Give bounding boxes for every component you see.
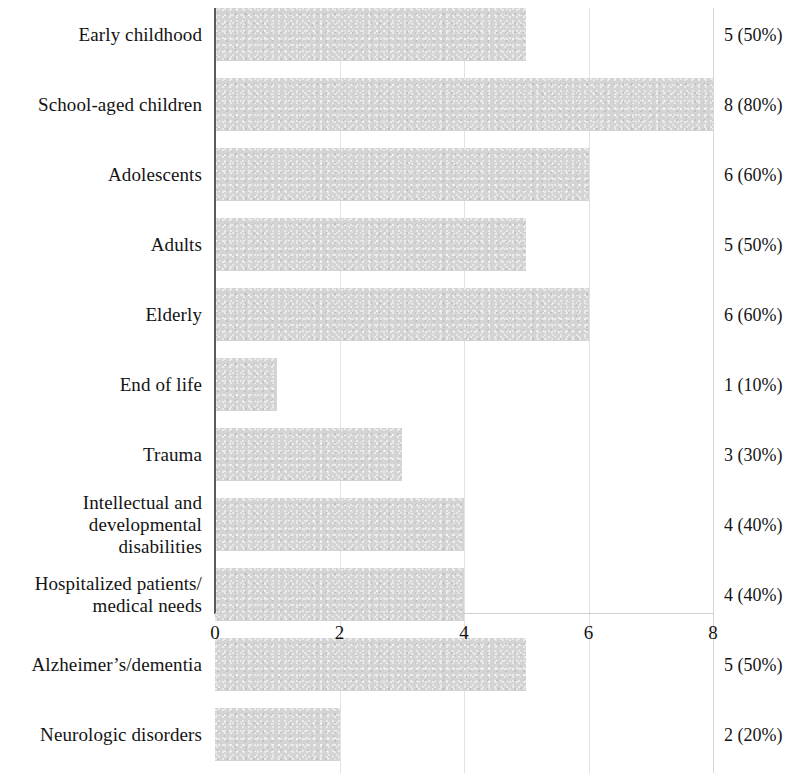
- value-label: 2 (20%): [724, 725, 793, 745]
- value-label: 4 (40%): [724, 585, 793, 605]
- value-label: 5 (50%): [724, 655, 793, 675]
- value-label: 3 (30%): [724, 445, 793, 465]
- category-label: End of life: [0, 374, 202, 396]
- value-label: 4 (40%): [724, 515, 793, 535]
- y-axis-line: [214, 8, 216, 614]
- category-label-line: School-aged children: [0, 94, 202, 116]
- value-label: 8 (80%): [724, 95, 793, 115]
- category-label-line: Adolescents: [0, 164, 202, 186]
- category-label-line: Adults: [0, 234, 202, 256]
- value-label: 1 (10%): [724, 375, 793, 395]
- bar: [215, 358, 277, 411]
- bar: [215, 218, 526, 271]
- category-label: Early childhood: [0, 24, 202, 46]
- category-label: Neurologic disorders: [0, 724, 202, 746]
- category-label-line: Hospitalized patients/: [0, 573, 202, 595]
- category-label-line: developmental: [0, 514, 202, 536]
- category-label: School-aged children: [0, 94, 202, 116]
- value-label: 6 (60%): [724, 165, 793, 185]
- category-label-line: Trauma: [0, 444, 202, 466]
- bar: [215, 498, 464, 551]
- category-label-line: End of life: [0, 374, 202, 396]
- category-label-line: Neurologic disorders: [0, 724, 202, 746]
- bar: [215, 638, 526, 691]
- category-label-line: Elderly: [0, 304, 202, 326]
- gridline-8: [713, 8, 714, 773]
- bar: [215, 78, 713, 131]
- bar: [215, 288, 589, 341]
- bar: [215, 708, 340, 761]
- value-label: 5 (50%): [724, 235, 793, 255]
- x-tick-label-8: 8: [693, 621, 733, 645]
- x-tick-label-2: 2: [320, 621, 360, 645]
- x-axis-line: [215, 613, 714, 614]
- category-label-line: medical needs: [0, 595, 202, 617]
- bar: [215, 148, 589, 201]
- category-label-line: disabilities: [0, 536, 202, 558]
- category-label: Hospitalized patients/medical needs: [0, 573, 202, 617]
- value-label: 5 (50%): [724, 25, 793, 45]
- category-label-line: Intellectual and: [0, 492, 202, 514]
- x-tick-label-6: 6: [569, 621, 609, 645]
- bar: [215, 8, 526, 61]
- x-tick-label-4: 4: [444, 621, 484, 645]
- x-tick-label-0: 0: [195, 621, 235, 645]
- category-label-line: Early childhood: [0, 24, 202, 46]
- category-label: Adults: [0, 234, 202, 256]
- category-label: Trauma: [0, 444, 202, 466]
- category-label: Intellectual anddevelopmentaldisabilitie…: [0, 492, 202, 558]
- category-label: Adolescents: [0, 164, 202, 186]
- value-label: 6 (60%): [724, 305, 793, 325]
- category-label: Elderly: [0, 304, 202, 326]
- category-label: Alzheimer’s/dementia: [0, 654, 202, 676]
- bar: [215, 428, 402, 481]
- category-label-line: Alzheimer’s/dementia: [0, 654, 202, 676]
